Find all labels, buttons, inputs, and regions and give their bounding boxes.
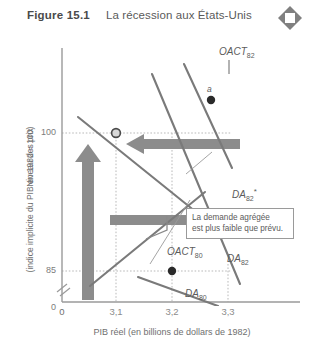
- figure-title: La récession aux États-Unis: [106, 9, 252, 21]
- figure-header: Figure 15.1 La récession aux États-Unis: [0, 0, 312, 34]
- callout-line1: La demande agrégée: [192, 212, 289, 223]
- oact80-text: OACT: [167, 246, 195, 257]
- x-axis-label: PIB réel (en billions de dollars de 1982…: [52, 327, 292, 337]
- figure-root: Figure 15.1 La récession aux États-Unis: [0, 0, 312, 344]
- da80-text: DA: [185, 288, 199, 299]
- diamond-logo-icon: [277, 5, 303, 31]
- point-c: [168, 267, 176, 275]
- xtick-32: 3,2: [157, 306, 187, 317]
- point-label-a: a: [207, 84, 212, 94]
- curve-label-da82: DA82: [227, 253, 249, 266]
- point-b: [112, 129, 121, 138]
- curve-da82star: [78, 117, 196, 212]
- chart-area: 100 85 0 0 3,1 3,2 3,3 Niveau des prix (…: [0, 34, 312, 306]
- curve-label-da80: DA80: [185, 288, 207, 301]
- da80-sub: 80: [199, 294, 207, 301]
- da82star-sup: *: [254, 187, 257, 196]
- xtick-31: 3,1: [101, 306, 131, 317]
- left-arrow: [126, 134, 240, 154]
- da82-sub: 82: [241, 259, 249, 266]
- point-a: [207, 96, 215, 104]
- curve-oact82: [184, 64, 232, 168]
- callout-line2: est plus faible que prévu.: [192, 223, 289, 234]
- xtick-0: 0: [47, 306, 77, 317]
- oact82-sub: 82: [247, 52, 255, 59]
- callout-box: La demande agrégée est plus faible que p…: [186, 208, 294, 239]
- da82-text: DA: [227, 253, 241, 264]
- axis-break-icon: [57, 284, 70, 296]
- axis-lines: [62, 48, 300, 302]
- up-arrow: [75, 144, 101, 300]
- curve-label-oact80: OACT80: [167, 246, 203, 259]
- oact80-sub: 80: [195, 252, 203, 259]
- da82star-sub: 82: [246, 195, 254, 202]
- figure-number: Figure 15.1: [27, 9, 90, 21]
- curve-label-oact82: OACT82: [219, 46, 255, 59]
- y-axis-label-line2: (indice implicite du PIB en 1982 = 100): [25, 100, 36, 300]
- oact82-text: OACT: [219, 46, 247, 57]
- da82star-text: DA: [232, 189, 246, 200]
- xtick-33: 3,3: [213, 306, 243, 317]
- curve-label-da82star: DA82*: [232, 187, 257, 202]
